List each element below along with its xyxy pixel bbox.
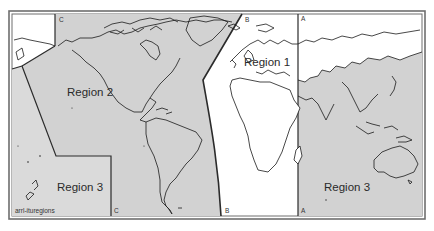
region-3-west-label: Region 3: [57, 181, 103, 193]
itu-regions-map: Region 2 Region 1 Region 3 Region 3 C C …: [0, 0, 434, 231]
line-b-top-label: B: [245, 16, 249, 23]
region-2-label: Region 2: [67, 86, 113, 98]
region-3-east-label: Region 3: [324, 181, 370, 193]
line-c-top-label: C: [59, 16, 64, 23]
line-c-bottom-label: C: [114, 207, 119, 214]
line-a-top-label: A: [301, 15, 306, 22]
map-credit: arrl-ituregions: [15, 207, 55, 215]
line-b-bottom-label: B: [225, 207, 229, 214]
line-a-bottom-label: A: [301, 207, 306, 214]
region-1-label: Region 1: [244, 56, 290, 68]
